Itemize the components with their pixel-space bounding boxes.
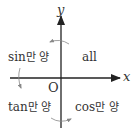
- quadrant-1-label: all: [82, 51, 97, 63]
- quadrant-4-suffix: 만 양: [95, 101, 119, 114]
- quadrant-1-func: all: [82, 50, 97, 64]
- quadrant-2-label: sin만 양: [8, 51, 49, 63]
- quadrant-3-label: tan만 양: [8, 101, 51, 113]
- quadrant-2-func: sin: [8, 50, 26, 64]
- y-axis-label: y: [57, 3, 64, 16]
- arc-top: [50, 40, 69, 44]
- x-axis-label: x: [123, 70, 130, 83]
- quadrant-4-label: cos만 양: [75, 101, 119, 113]
- quadrant-4-func: cos: [75, 100, 95, 114]
- coordinate-axes: [0, 0, 139, 140]
- quadrant-3-suffix: 만 양: [28, 101, 52, 114]
- quadrant-3-func: tan: [8, 100, 28, 114]
- origin-label: O: [48, 81, 59, 94]
- quadrant-2-suffix: 만 양: [26, 51, 50, 64]
